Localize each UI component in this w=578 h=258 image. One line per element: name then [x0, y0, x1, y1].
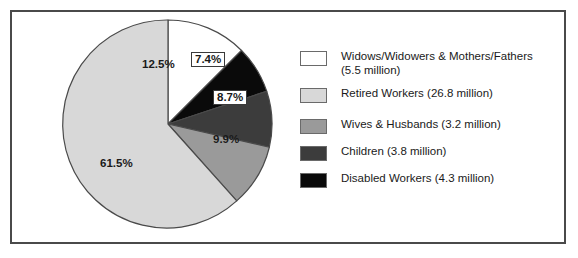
chart-figure-frame: 12.5% 7.4% 8.7% 9.9% 61.5% Widows/Widowe…: [10, 10, 566, 244]
pie-label-widows: 12.5%: [142, 58, 175, 70]
legend-label-widows: Widows/Widowers & Mothers/Fathers (5.5 m…: [341, 50, 533, 77]
legend-item-widows[interactable]: Widows/Widowers & Mothers/Fathers (5.5 m…: [300, 50, 550, 77]
pie-svg: [58, 14, 278, 234]
figure-caption: [12, 249, 572, 258]
legend-item-children[interactable]: Children (3.8 million): [300, 145, 550, 161]
legend-label-retired-workers: Retired Workers (26.8 million): [341, 87, 493, 101]
legend-swatch-retired-workers: [300, 88, 327, 103]
legend-item-disabled-workers[interactable]: Disabled Workers (4.3 million): [300, 172, 550, 188]
legend-label-wives-husbands: Wives & Husbands (3.2 million): [341, 118, 501, 132]
legend-swatch-widows: [300, 51, 327, 66]
legend-item-wives-husbands[interactable]: Wives & Husbands (3.2 million): [300, 118, 550, 134]
legend-label-children: Children (3.8 million): [341, 145, 446, 159]
legend-swatch-disabled-workers: [300, 173, 327, 188]
legend-label-disabled-workers: Disabled Workers (4.3 million): [341, 172, 494, 186]
pie-chart: 12.5% 7.4% 8.7% 9.9% 61.5%: [58, 14, 278, 234]
legend-swatch-wives-husbands: [300, 119, 327, 134]
legend-swatch-children: [300, 146, 327, 161]
pie-label-disabled-workers: 7.4%: [191, 52, 225, 67]
pie-label-retired-workers: 61.5%: [100, 157, 133, 169]
pie-label-wives-husbands: 9.9%: [213, 133, 239, 145]
chart-legend: Widows/Widowers & Mothers/Fathers (5.5 m…: [300, 50, 550, 188]
legend-item-retired-workers[interactable]: Retired Workers (26.8 million): [300, 87, 550, 103]
pie-label-children: 8.7%: [213, 90, 247, 105]
